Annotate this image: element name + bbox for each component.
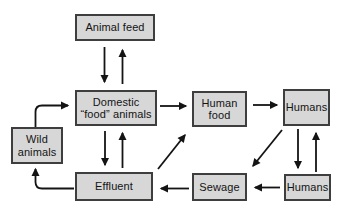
node-animal-feed: Animal feed <box>75 14 155 41</box>
node-domestic-food-animals: Domestic “food” animals <box>75 90 157 126</box>
node-wild-animals: Wild animals <box>11 127 63 164</box>
diagram-canvas: Animal feed Domestic “food” animals Huma… <box>0 0 344 213</box>
node-humans-bottom-label: Humans <box>287 181 329 194</box>
node-effluent: Effluent <box>75 172 153 201</box>
node-sewage-label: Sewage <box>199 181 239 194</box>
node-animal-feed-label: Animal feed <box>85 21 144 34</box>
node-human-food-label: Human food <box>202 97 238 122</box>
node-domestic-food-animals-label: Domestic “food” animals <box>80 96 151 121</box>
arrow-effluent-to-wild-animals <box>36 169 75 189</box>
node-sewage: Sewage <box>192 173 247 201</box>
node-humans-bottom: Humans <box>284 174 331 201</box>
arrow-effluent-to-human-food <box>158 135 185 169</box>
node-humans-top: Humans <box>283 89 330 126</box>
arrow-humans-top-to-sewage <box>253 130 282 166</box>
node-human-food: Human food <box>192 91 247 127</box>
node-humans-top-label: Humans <box>286 101 328 114</box>
arrow-wild-animals-to-domestic <box>36 106 69 128</box>
node-wild-animals-label: Wild animals <box>18 133 57 158</box>
node-effluent-label: Effluent <box>95 180 133 193</box>
